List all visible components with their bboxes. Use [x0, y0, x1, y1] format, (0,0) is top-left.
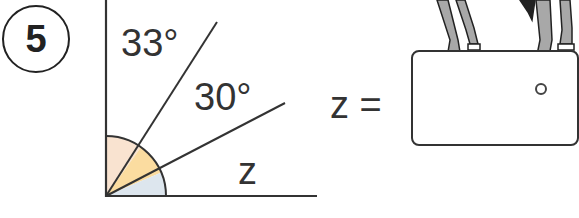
- angle-label-33: 33°: [121, 24, 178, 62]
- angle-label-z: z: [238, 152, 257, 190]
- answer-input-box[interactable]: [411, 50, 579, 146]
- angle-label-30: 30°: [194, 78, 251, 116]
- degree-symbol-icon: [535, 83, 547, 95]
- equation-lhs: z =: [330, 86, 382, 124]
